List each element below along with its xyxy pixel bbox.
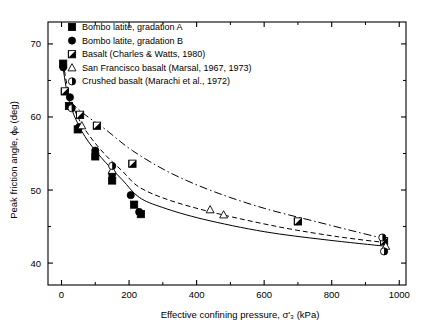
data-point — [294, 218, 301, 225]
x-tick-label: 800 — [324, 289, 340, 300]
data-point — [109, 162, 116, 169]
x-tick-label: 0 — [59, 289, 64, 300]
data-point — [131, 201, 138, 208]
y-tick-label: 70 — [30, 38, 41, 49]
data-point — [136, 208, 143, 215]
data-point — [109, 177, 116, 184]
legend-label: Crushed basalt (Marachi et al., 1972) — [82, 76, 230, 86]
legend-marker-filled-circle — [68, 37, 75, 44]
peak-friction-angle-chart: 02004006008001000 40506070 Effective con… — [0, 0, 424, 332]
chart-background — [0, 0, 424, 332]
data-point — [76, 111, 83, 118]
legend-label: Basalt (Charles & Watts, 1980) — [82, 49, 205, 59]
x-tick-label: 400 — [189, 289, 205, 300]
legend-label: San Francisco basalt (Marsal, 1967, 1973… — [82, 63, 252, 73]
y-tick-label: 50 — [30, 185, 41, 196]
y-axis-label: Peak friction angle, ϕₚ (deg) — [8, 101, 19, 219]
legend-item: Bombo latite, gradation A — [68, 22, 182, 32]
x-tick-label: 1000 — [389, 289, 410, 300]
data-point — [68, 105, 75, 112]
legend-label: Bombo latite, gradation B — [82, 36, 183, 46]
legend-item: Crushed basalt (Marachi et al., 1972) — [68, 76, 230, 86]
data-point — [129, 160, 136, 167]
data-point — [60, 64, 67, 71]
legend-item: Basalt (Charles & Watts, 1980) — [68, 49, 205, 59]
data-point — [379, 234, 386, 241]
x-tick-label: 200 — [121, 289, 137, 300]
legend-item: Bombo latite, gradation B — [68, 36, 183, 46]
data-point — [61, 88, 68, 95]
chart-container: 02004006008001000 40506070 Effective con… — [0, 0, 424, 332]
data-point — [380, 248, 387, 255]
data-point — [127, 192, 134, 199]
legend-label: Bombo latite, gradation A — [82, 22, 183, 32]
x-axis-label: Effective confining pressure, σ'₃ (kPa) — [161, 309, 320, 320]
legend-marker-half-circle — [68, 78, 75, 85]
data-point — [93, 122, 100, 129]
x-tick-label: 600 — [256, 289, 272, 300]
legend-item: San Francisco basalt (Marsal, 1967, 1973… — [68, 63, 252, 73]
data-point — [92, 147, 99, 154]
y-tick-label: 40 — [30, 258, 41, 269]
legend-marker-half-square — [68, 51, 75, 58]
y-tick-label: 60 — [30, 111, 41, 122]
legend-marker-filled-square — [68, 23, 75, 30]
